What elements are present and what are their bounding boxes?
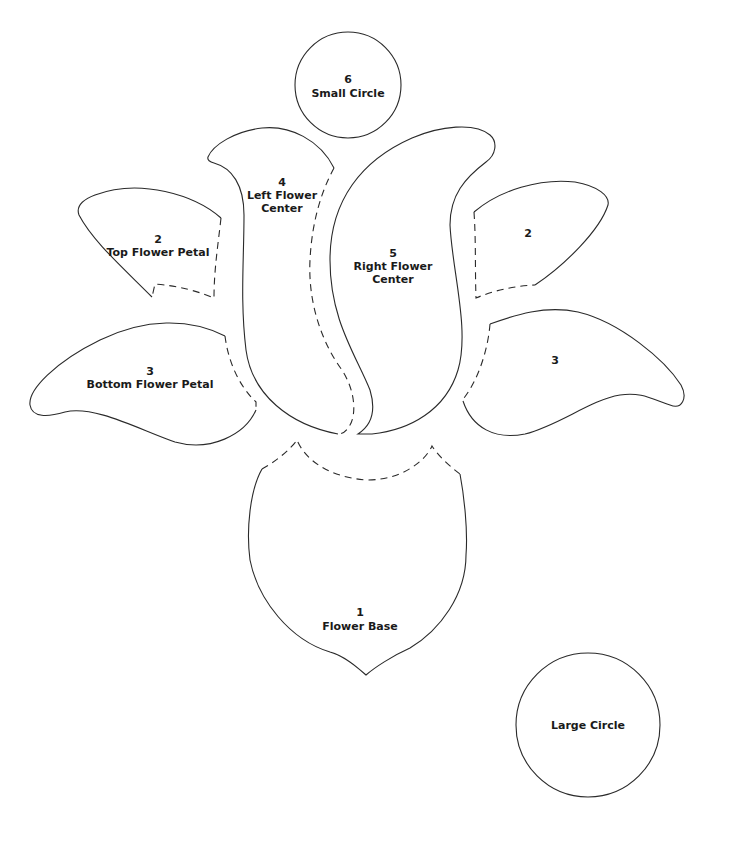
top-petal-left-number: 2 bbox=[154, 233, 162, 246]
piece-right-flower-center[interactable]: 5 Right Flower Center bbox=[330, 127, 495, 434]
left-center-cut-line bbox=[208, 128, 338, 434]
top-petal-right-cut-line bbox=[474, 181, 608, 285]
right-center-number: 5 bbox=[389, 247, 397, 260]
large-circle-label: Large Circle bbox=[551, 719, 625, 732]
left-center-label-2: Center bbox=[261, 202, 303, 215]
top-petal-right-number: 2 bbox=[524, 227, 532, 240]
bottom-petal-left-number: 3 bbox=[146, 365, 154, 378]
piece-bottom-petal-right[interactable]: 3 bbox=[463, 310, 684, 436]
small-circle-label: Small Circle bbox=[311, 87, 384, 100]
small-circle-number: 6 bbox=[344, 73, 352, 86]
bottom-petal-left-label: Bottom Flower Petal bbox=[87, 378, 214, 391]
flower-base-cut-line bbox=[249, 469, 467, 675]
flower-base-number: 1 bbox=[356, 606, 364, 619]
top-petal-left-label: Top Flower Petal bbox=[107, 246, 210, 259]
pattern-sheet: 6 Small Circle 4 Left Flower Center 5 Ri… bbox=[0, 0, 729, 846]
right-center-label-1: Right Flower bbox=[354, 260, 433, 273]
piece-large-circle[interactable]: Large Circle bbox=[516, 653, 660, 797]
piece-top-petal-right[interactable]: 2 bbox=[474, 181, 608, 298]
bottom-petal-right-number: 3 bbox=[551, 354, 559, 367]
bottom-petal-right-seam-line bbox=[464, 324, 490, 398]
flower-base-seam-line bbox=[262, 440, 460, 480]
piece-small-circle[interactable]: 6 Small Circle bbox=[295, 32, 401, 138]
top-petal-left-cut-line bbox=[78, 188, 221, 297]
bottom-petal-right-cut-line bbox=[463, 310, 684, 436]
bottom-petal-left-seam-line bbox=[225, 336, 256, 410]
left-center-label-1: Left Flower bbox=[247, 189, 318, 202]
piece-top-petal-left[interactable]: 2 Top Flower Petal bbox=[78, 188, 221, 298]
piece-flower-base[interactable]: 1 Flower Base bbox=[249, 440, 467, 675]
piece-bottom-petal-left[interactable]: 3 Bottom Flower Petal bbox=[30, 323, 256, 445]
flower-base-label: Flower Base bbox=[322, 620, 398, 633]
top-petal-right-seam-line bbox=[474, 212, 535, 298]
right-center-label-2: Center bbox=[372, 273, 414, 286]
left-center-number: 4 bbox=[278, 176, 286, 189]
